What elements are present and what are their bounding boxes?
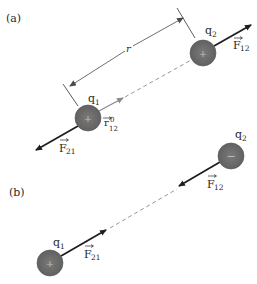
charge-label-q1-b: q 1: [53, 236, 65, 251]
distance-label: r: [126, 43, 132, 54]
panel-b-label: (b): [9, 186, 25, 199]
svg-text:12: 12: [214, 183, 224, 192]
charge-label-q2-b: q 2: [235, 128, 247, 143]
dashed-connector-b: [110, 189, 177, 228]
svg-text:1: 1: [60, 242, 65, 251]
extension-line-q2: [177, 8, 195, 38]
panel-a: (a) r r 0 12 F 21: [6, 8, 251, 156]
force-label-f12-a: F 12: [233, 37, 250, 54]
charge-sign: +: [46, 258, 54, 269]
svg-text:q: q: [53, 236, 60, 249]
distance-arrow-right: [133, 18, 183, 46]
svg-text:12: 12: [109, 125, 118, 133]
charge-q1-a: +: [75, 105, 101, 131]
svg-text:q: q: [205, 24, 212, 37]
svg-text:1: 1: [95, 98, 100, 107]
panel-a-label: (a): [6, 12, 21, 25]
charge-q2-a: +: [190, 40, 216, 66]
svg-text:21: 21: [91, 253, 101, 262]
svg-text:q: q: [235, 128, 242, 141]
svg-text:12: 12: [240, 44, 250, 53]
svg-text:2: 2: [242, 134, 247, 143]
svg-text:21: 21: [66, 147, 76, 156]
coulomb-force-diagram: (a) r r 0 12 F 21: [0, 0, 257, 284]
unit-vector-arrow: [99, 98, 123, 111]
svg-text:2: 2: [212, 30, 217, 39]
distance-arrow-left: [70, 51, 125, 86]
charge-label-q1-a: q 1: [88, 92, 100, 107]
force-label-f12-b: F 12: [207, 175, 224, 193]
charge-q1-b: +: [37, 250, 63, 276]
panel-b: (b) F 12 F 21 + q 1: [9, 128, 247, 276]
svg-text:q: q: [88, 92, 95, 105]
charge-sign: −: [226, 150, 235, 163]
dashed-connector-a: [125, 59, 193, 97]
force-label-f21-b: F 21: [84, 245, 101, 263]
charge-sign: +: [84, 113, 92, 124]
force-label-f21-a: F 21: [59, 139, 76, 157]
unit-vector-label: r 0 12: [103, 116, 118, 133]
charge-sign: +: [199, 48, 207, 59]
charge-q2-b: −: [218, 143, 244, 169]
charge-label-q2-a: q 2: [205, 24, 217, 39]
extension-line-q1: [63, 84, 78, 106]
